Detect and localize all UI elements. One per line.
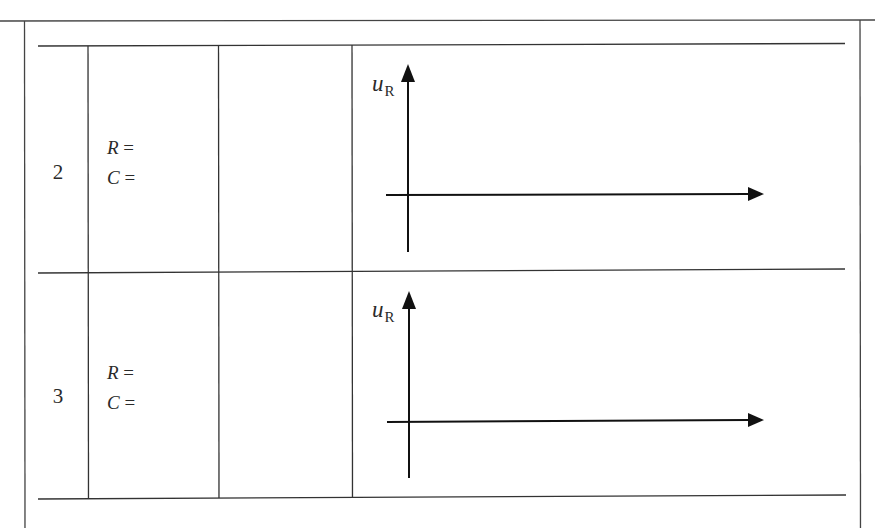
resistance-field: R =	[107, 363, 134, 382]
capacitance-field: C =	[107, 168, 135, 187]
column-divider-3	[352, 45, 353, 497]
row-divider	[38, 269, 845, 273]
axis-subscript: R	[385, 309, 395, 325]
worksheet-page: 2 R = C = uR 3 R = C = uR	[0, 0, 875, 528]
param-var: C	[107, 392, 120, 413]
outer-frame-right	[860, 20, 861, 528]
capacitance-field: C =	[107, 393, 135, 412]
outer-frame-left	[25, 21, 26, 528]
outer-frame-top	[0, 20, 875, 21]
axis-var: u	[372, 297, 384, 322]
param-var: R	[107, 137, 119, 158]
param-eq: =	[119, 137, 134, 158]
table-bottom-border	[38, 495, 846, 499]
x-axis	[386, 194, 748, 195]
param-eq: =	[119, 362, 134, 383]
graph-row-3	[387, 291, 764, 478]
column-divider-2	[219, 45, 220, 498]
y-axis-label: uR	[372, 298, 395, 321]
param-var: C	[107, 167, 120, 188]
axis-subscript: R	[385, 83, 395, 99]
row-index: 3	[53, 386, 64, 407]
x-axis	[387, 420, 748, 422]
param-eq: =	[120, 167, 135, 188]
row-index: 2	[53, 162, 64, 183]
column-divider-1	[88, 46, 89, 499]
graph-row-2	[386, 64, 764, 252]
table-grid	[0, 0, 875, 528]
axis-var: u	[372, 71, 384, 96]
y-axis-label: uR	[372, 72, 395, 95]
param-eq: =	[120, 392, 135, 413]
x-axis-arrow-icon	[748, 187, 764, 201]
x-axis-arrow-icon	[748, 413, 764, 427]
param-var: R	[107, 362, 119, 383]
resistance-field: R =	[107, 138, 134, 157]
y-axis-arrow-icon	[402, 291, 416, 309]
y-axis-arrow-icon	[401, 64, 415, 82]
table-top-border	[38, 44, 845, 47]
